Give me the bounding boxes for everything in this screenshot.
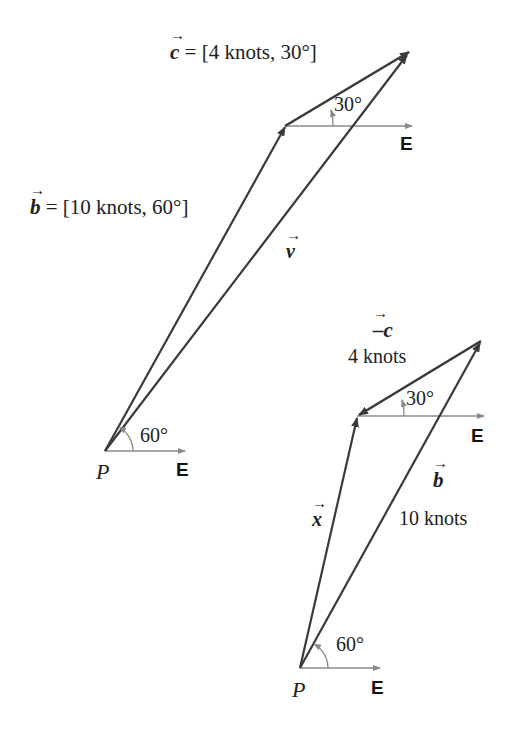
symbol-c: c: [170, 40, 179, 65]
angle-label-60-bottom: 60°: [336, 633, 364, 656]
east-label-top-mid: E: [400, 133, 413, 155]
diagram-canvas: [0, 0, 509, 743]
label-b-bottom: b: [433, 468, 444, 493]
vector-diagram: c = [4 knots, 30°] b = [10 knots, 60°] v…: [0, 0, 509, 743]
symbol-b: b: [30, 195, 41, 220]
east-label-bottom-mid: E: [471, 425, 484, 447]
label-x-bottom: x: [312, 508, 322, 531]
vector-x-bottom: [300, 418, 357, 668]
angle-label-60-top: 60°: [140, 424, 168, 447]
angle-arc-30-top: [331, 110, 333, 126]
vector-b-bottom: [300, 343, 480, 668]
label-b-magnitude: 10 knots: [399, 507, 467, 530]
angle-label-30-top: 30°: [334, 93, 362, 116]
bottom-triangle: [300, 341, 484, 668]
origin-label-top: P: [96, 459, 109, 485]
top-triangle: [105, 52, 412, 451]
east-label-bottom-origin: E: [371, 677, 384, 699]
label-c-top: c = [4 knots, 30°]: [170, 40, 317, 65]
label-v-top: v: [286, 240, 295, 263]
origin-label-bottom: P: [292, 677, 305, 703]
angle-label-30-bottom: 30°: [406, 387, 434, 410]
label-neg-c-magnitude: 4 knots: [348, 345, 406, 368]
vector-b-top: [105, 127, 285, 451]
angle-arc-60-bottom: [314, 644, 328, 668]
label-b-top: b = [10 knots, 60°]: [30, 195, 188, 220]
east-label-top-origin: E: [176, 459, 189, 481]
angle-arc-30-bottom: [402, 400, 404, 416]
label-neg-c-bottom: –c: [373, 318, 393, 343]
